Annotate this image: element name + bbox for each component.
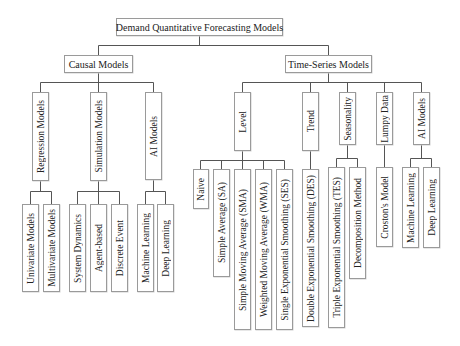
ts-deep-learning-node: Deep Learning — [423, 167, 440, 248]
lumpy-data-node: Lumpy Data — [376, 92, 393, 145]
causal-models-label: Causal Models — [69, 59, 129, 70]
ts-machine-learning-node: Machine Learning — [402, 167, 419, 248]
ts-ai-models-node: AI Models — [413, 92, 430, 145]
root-node: Demand Quantitative Forecasting Models — [116, 18, 283, 36]
time-series-models-label: Time-Series Models — [288, 59, 369, 70]
causal-deep-learning-label: Deep Learning — [161, 220, 171, 277]
simple-moving-average-node: Simple Moving Average (SMA) — [234, 169, 251, 330]
naive-node: Naive — [193, 169, 209, 209]
trend-node: Trend — [302, 92, 319, 151]
crostons-model-label: Croston's Model — [380, 176, 390, 239]
single-exponential-smoothing-node: Single Exponential Smoothing (SES) — [276, 169, 293, 330]
causal-deep-learning-node: Deep Learning — [157, 204, 174, 292]
ts-ai-models-label: AI Models — [417, 98, 427, 139]
multivariate-models-node: Multivariate Models — [43, 204, 60, 292]
regression-models-node: Regression Models — [32, 92, 49, 181]
single-exponential-smoothing-label: Single Exponential Smoothing (SES) — [280, 179, 290, 321]
discrete-event-label: Discrete Event — [115, 220, 125, 276]
seasonality-label: Seasonality — [343, 97, 353, 141]
weighted-moving-average-node: Weighted Moving Average (WMA) — [255, 169, 272, 330]
system-dynamics-node: System Dynamics — [69, 204, 86, 292]
ts-deep-learning-label: Deep Learning — [427, 179, 437, 236]
agent-based-label: Agent-based — [94, 224, 104, 272]
causal-machine-learning-node: Machine Learning — [137, 204, 154, 292]
multivariate-models-label: Multivariate Models — [47, 209, 57, 287]
ts-machine-learning-label: Machine Learning — [406, 173, 416, 243]
simulation-models-node: Simulation Models — [90, 92, 107, 181]
univariate-models-node: Univariate Models — [22, 204, 39, 292]
simple-moving-average-label: Simple Moving Average (SMA) — [238, 189, 248, 311]
causal-models-node: Causal Models — [64, 55, 133, 73]
causal-ai-models-node: AI Models — [145, 92, 162, 180]
causal-machine-learning-label: Machine Learning — [141, 213, 151, 283]
seasonality-node: Seasonality — [339, 92, 356, 145]
naive-label: Naive — [196, 178, 206, 201]
simple-average-label: Simple Average (SA) — [217, 182, 227, 263]
trend-label: Trend — [306, 110, 316, 132]
agent-based-node: Agent-based — [90, 204, 107, 292]
double-exponential-smoothing-node: Double Exponential Smoothing (DES) — [302, 169, 319, 327]
lumpy-data-label: Lumpy Data — [380, 95, 390, 143]
decomposition-method-label: Decomposition Method — [353, 178, 363, 268]
regression-models-label: Regression Models — [36, 100, 46, 173]
system-dynamics-label: System Dynamics — [73, 214, 83, 283]
crostons-model-node: Croston's Model — [376, 167, 393, 247]
discrete-event-node: Discrete Event — [111, 204, 128, 292]
triple-exponential-smoothing-label: Triple Exponential Smoothing (TES) — [332, 177, 342, 318]
simulation-models-label: Simulation Models — [94, 100, 104, 173]
time-series-models-node: Time-Series Models — [285, 55, 372, 73]
causal-ai-models-label: AI Models — [149, 116, 159, 157]
triple-exponential-smoothing-node: Triple Exponential Smoothing (TES) — [328, 167, 345, 328]
level-label: Level — [238, 111, 248, 133]
univariate-models-label: Univariate Models — [26, 213, 36, 284]
simple-average-node: Simple Average (SA) — [213, 169, 230, 277]
double-exponential-smoothing-label: Double Exponential Smoothing (DES) — [306, 175, 316, 322]
root-label: Demand Quantitative Forecasting Models — [116, 22, 283, 33]
decomposition-method-node: Decomposition Method — [349, 167, 366, 279]
weighted-moving-average-label: Weighted Moving Average (WMA) — [259, 182, 269, 317]
level-node: Level — [234, 92, 251, 151]
